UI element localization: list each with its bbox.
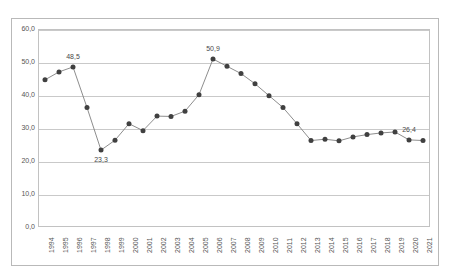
- data-point: [267, 93, 272, 98]
- data-point: [99, 148, 104, 153]
- data-series: [0, 0, 453, 275]
- data-point: [85, 105, 90, 110]
- data-point: [393, 129, 398, 134]
- data-point-label: 48,5: [66, 53, 80, 61]
- data-point: [323, 137, 328, 142]
- data-point: [211, 57, 216, 62]
- data-point: [379, 130, 384, 135]
- data-point: [141, 128, 146, 133]
- data-point: [113, 138, 118, 143]
- chart-figure: 0,010,020,030,040,050,060,0 199419951996…: [0, 0, 453, 275]
- data-point: [365, 132, 370, 137]
- data-point: [155, 114, 160, 119]
- data-point: [183, 109, 188, 114]
- data-point: [43, 77, 48, 82]
- data-point: [225, 64, 230, 69]
- series-markers: [43, 57, 426, 153]
- data-point: [239, 71, 244, 76]
- data-point: [351, 134, 356, 139]
- data-point-label: 23,3: [94, 156, 108, 164]
- data-point: [407, 137, 412, 142]
- data-point: [309, 138, 314, 143]
- data-point: [71, 64, 76, 69]
- data-point: [127, 121, 132, 126]
- data-point: [169, 114, 174, 119]
- data-point-label: 50,9: [206, 45, 220, 53]
- data-point: [57, 69, 62, 74]
- data-point-label: 26,4: [402, 126, 416, 134]
- data-point: [295, 121, 300, 126]
- data-point: [421, 138, 426, 143]
- data-point: [281, 105, 286, 110]
- data-point: [337, 138, 342, 143]
- data-point: [253, 81, 258, 86]
- data-point: [197, 92, 202, 97]
